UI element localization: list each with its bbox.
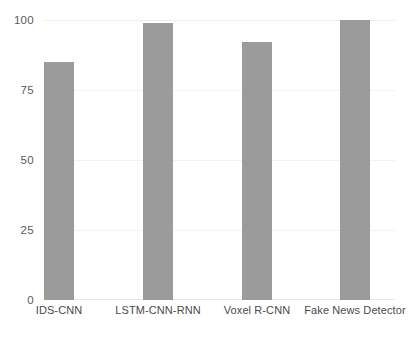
bar-fake-news-detector[interactable] <box>340 20 370 300</box>
x-tick-label-voxel-r-cnn: Voxel R-CNN <box>224 304 291 316</box>
x-tick-label-ids-cnn: IDS-CNN <box>36 304 83 316</box>
bar-lstm-cnn-rnn[interactable] <box>143 23 173 300</box>
x-axis: IDS-CNN LSTM-CNN-RNN Voxel R-CNN Fake Ne… <box>0 301 410 321</box>
x-tick-label-lstm-cnn-rnn: LSTM-CNN-RNN <box>115 304 201 316</box>
y-tick-label-75: 75 <box>21 84 34 96</box>
y-tick-label-100: 100 <box>14 14 34 26</box>
x-tick-label-fake-news-detector: Fake News Detector <box>304 304 405 316</box>
bar-ids-cnn[interactable] <box>44 62 74 300</box>
y-tick-label-50: 50 <box>21 154 34 166</box>
bar-voxel-r-cnn[interactable] <box>242 42 272 300</box>
plot-area <box>44 20 395 300</box>
bar-chart-figure: 100 75 50 25 0 IDS-CNN LSTM-CNN-RNN <box>0 0 410 337</box>
y-axis: 100 75 50 25 0 <box>0 0 44 337</box>
y-tick-label-25: 25 <box>21 224 34 236</box>
